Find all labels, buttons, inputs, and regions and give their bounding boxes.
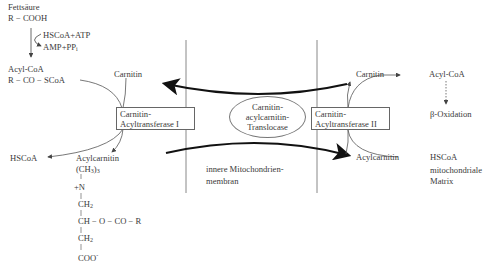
structure-trimethyl: (CH3)3 [76, 164, 100, 175]
beta-oxidation-label: β-Oxidation [430, 109, 472, 120]
acylcarnitin-import-arrow [166, 143, 347, 155]
structure-nitrogen: +N [74, 182, 85, 193]
structure-carboxylate: COO- [78, 250, 98, 263]
cat2-box: Carnitin- Acyltransferase II [311, 107, 390, 130]
acylcarnitin-matrix-label: Acylcarnitin [356, 152, 399, 163]
matrix-label-line1: mitochondriale [430, 165, 482, 176]
cat2-label-line2: Acyltransferase II [315, 119, 386, 129]
cat1-label-line1: Carnitin- [120, 109, 191, 119]
fatty-acid-formula: R − COOH [8, 13, 47, 24]
acylcarnitin-to-cat2 [346, 130, 348, 154]
carnitin-return-arrow [166, 84, 347, 94]
carnitin-cytosol-label: Carnitin [114, 69, 142, 80]
membrane-label-line1: innere Mitochondrien- [206, 164, 284, 175]
structure-ch2-b: CH2 [78, 233, 93, 244]
cat1-label-line2: Acyltransferase I [120, 119, 191, 129]
activation-side-curve [35, 34, 42, 46]
acyl-coa-label: Acyl-CoA [8, 64, 44, 75]
structure-ch2-a: CH2 [78, 199, 93, 210]
acyl-coa-formula: R − CO − SCoA [8, 75, 65, 86]
hscoa-matrix-label: HSCoA [430, 152, 457, 163]
acyl-coa-matrix-label: Acyl-CoA [429, 69, 465, 80]
carnitin-matrix-label: Carnitin [356, 69, 384, 80]
structure-ester: CH − O − CO − R [78, 216, 141, 227]
cat2-label-line1: Carnitin- [315, 109, 386, 119]
membrane-label-line2: membran [206, 176, 238, 187]
cat1-to-acylcarnitin [112, 129, 123, 152]
diagram-arrows [0, 0, 488, 270]
cat2-to-acylcoa [348, 75, 400, 108]
translocase-line1: Carnitin- [252, 102, 283, 112]
acylcoa-to-cat1 [80, 80, 122, 108]
activation-inputs: HSCoA+ATP [43, 30, 90, 41]
matrix-label-line2: Matrix [430, 176, 453, 187]
cat1-box: Carnitin- Acyltransferase I [116, 107, 195, 130]
translocase-ellipse: Carnitin- acylcarnitin- Translocase [229, 96, 306, 138]
acylcarnitin-cytosol-label: Acylcarnitin [76, 153, 119, 164]
translocase-line2: acylcarnitin- [246, 112, 289, 122]
translocase-line3: Translocase [247, 122, 288, 132]
hscoa-cytosol-label: HSCoA [10, 153, 37, 164]
fatty-acid-label: Fettsäure [8, 2, 40, 13]
activation-outputs: AMP+PPi [43, 42, 78, 53]
carnitin-to-cat1 [123, 78, 126, 108]
